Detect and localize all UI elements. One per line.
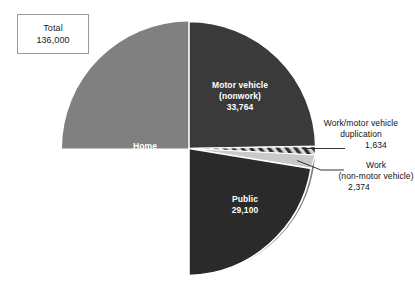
callout-dup-value: 1,634: [307, 140, 415, 151]
pie-chart-figure: Total 136,000 Motor vehicle (non: [0, 0, 415, 293]
callout-dup-line1: Work/motor vehicle: [307, 118, 415, 129]
callout-work-non-motor: Work (non-motor vehicle) 2,374: [303, 160, 415, 193]
total-legend-box: Total 136,000: [17, 14, 89, 54]
callout-work-line1: Work: [303, 160, 415, 171]
callout-work-value: 2,374: [303, 182, 415, 193]
callout-work-motor-duplication: Work/motor vehicle duplication 1,634: [307, 118, 415, 151]
pie-slice-public: [189, 149, 311, 276]
total-label: Total: [43, 22, 63, 34]
callout-dup-line2: duplication: [307, 129, 415, 140]
callout-work-line2: (non-motor vehicle): [303, 171, 415, 182]
total-value: 136,000: [36, 34, 69, 46]
pie-slice-motor-vehicle: [189, 22, 316, 149]
